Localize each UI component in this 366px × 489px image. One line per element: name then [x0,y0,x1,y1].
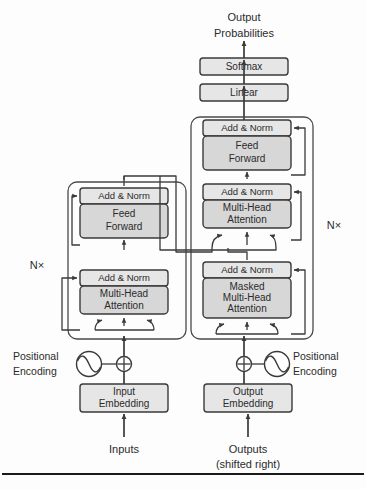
decoder-add-norm-middle-label: Add & Norm [221,186,273,197]
outputs-label-line1: Outputs [229,443,268,455]
output-embedding-line2: Embedding [223,398,274,409]
decoder-masked-attention-line3: Attention [227,303,266,314]
encoder-repeat-label: N× [30,259,44,271]
encoder-feed-forward-block: Feed Forward [80,204,168,238]
decoder-feed-forward-block: Feed Forward [203,136,291,170]
arrow-encoder-key-into-cross-attn [212,235,222,248]
output-probabilities-label: Output Probabilities [214,11,274,39]
encoder-residual-upper [72,196,80,245]
output-embedding-line1: Output [233,386,263,397]
encoder-add-norm-lower-label: Add & Norm [98,272,150,283]
decoder-repeat-label: N× [327,219,341,231]
transformer-architecture-figure: Output Probabilities Softmax Linear Add … [0,0,366,489]
encoder-feed-forward-line2: Forward [106,221,143,232]
decoder-residual-upper [291,128,305,175]
arrow-encoder-key-into-attn [95,320,102,330]
encoder-residual-lower [62,278,80,330]
decoder-pe-line1: Positional [293,350,339,362]
decoder-residual-middle [291,192,301,240]
decoder-feed-forward-line2: Forward [229,153,266,164]
encoder-pe-line2: Encoding [13,365,57,377]
arrow-encoder-value-into-cross-attn [270,235,276,248]
output-embedding-block: Output Embedding [204,384,292,412]
encoder-positional-encoding-label: Positional Encoding [13,350,59,377]
encoder-positional-encoding-icon [77,352,102,377]
decoder-cross-attention-block: Multi-Head Attention [203,200,291,228]
decoder-masked-attention-block: Masked Multi-Head Attention [203,278,291,318]
decoder-add-norm-upper-block: Add & Norm [203,120,291,136]
decoder-masked-attention-line1: Masked [229,281,264,292]
decoder-residual-lower [291,270,305,334]
decoder-feed-forward-line1: Feed [236,140,259,151]
outputs-label-line2: (shifted right) [216,458,280,470]
output-probabilities-line2: Probabilities [214,27,274,39]
encoder-attention-line1: Multi-Head [100,288,148,299]
input-embedding-line1: Input [113,386,135,397]
decoder-add-norm-lower-block: Add & Norm [203,262,291,278]
input-embedding-line2: Embedding [99,398,150,409]
decoder-cross-attention-line2: Attention [227,214,266,225]
decoder-add-norm-lower-label: Add & Norm [221,264,273,275]
decoder-add-norm-upper-label: Add & Norm [221,122,273,133]
encoder-add-norm-upper-block: Add & Norm [80,188,168,204]
decoder-positional-encoding-icon [265,352,290,377]
encoder-pe-line1: Positional [13,350,59,362]
decoder-add-norm-middle-block: Add & Norm [203,184,291,200]
input-embedding-block: Input Embedding [80,384,168,412]
arrow-decoder-value-into-masked-attn [270,324,278,334]
decoder-masked-attention-line2: Multi-Head [223,292,271,303]
arrow-decoder-key-into-masked-attn [216,324,224,334]
decoder-pe-line2: Encoding [293,365,337,377]
decoder-positional-add [237,357,252,372]
encoder-attention-block: Multi-Head Attention [80,286,168,314]
output-probabilities-line1: Output [227,11,260,23]
architecture-diagram-svg: Output Probabilities Softmax Linear Add … [0,0,366,489]
inputs-label: Inputs [109,443,139,455]
decoder-cross-attention-line1: Multi-Head [223,202,271,213]
encoder-add-norm-lower-block: Add & Norm [80,270,168,286]
encoder-attention-line2: Attention [104,300,143,311]
encoder-add-norm-upper-label: Add & Norm [98,190,150,201]
arrow-encoder-value-into-attn [147,320,154,330]
encoder-feed-forward-line1: Feed [113,208,136,219]
encoder-positional-add [117,357,132,372]
decoder-positional-encoding-label: Positional Encoding [293,350,339,377]
